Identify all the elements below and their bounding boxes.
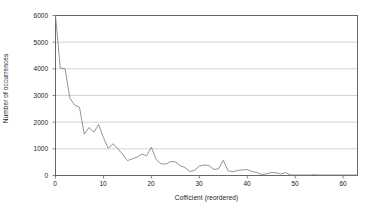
chart-container: Number of occurrences Cofficient (reorde… [0,0,371,214]
plot-area [0,0,371,214]
gridlines [56,16,358,149]
